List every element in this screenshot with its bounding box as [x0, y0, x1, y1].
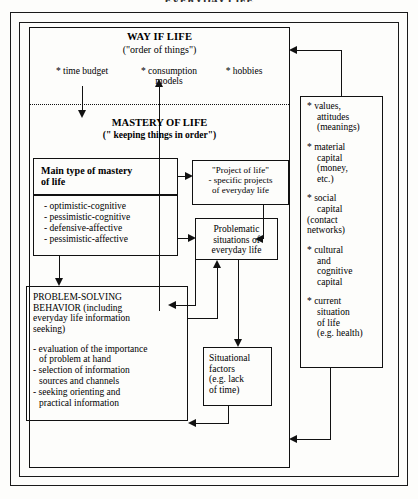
psb-item: - selection of information sources and c… [33, 365, 183, 386]
mastery-type-item: - optimistic-cognitive [44, 201, 177, 212]
mastery-of-life-subtitle: (" keeping things in order") [29, 130, 290, 140]
resource-line: cognitive [305, 266, 380, 277]
resource-group: * values, attitudes (meanings) [305, 101, 380, 133]
resource-line: capital [305, 204, 380, 215]
psb-item: - evaluation of the importance of proble… [33, 344, 183, 365]
connector-problematic-to-situational-line [238, 260, 239, 340]
resource-line: * cultural [305, 245, 380, 256]
situational-factors-box: Situational factors (e.g. lack of time) [203, 347, 272, 406]
project-line1: "Project of life" [195, 165, 286, 175]
connector-situational-to-psb-hline [196, 423, 229, 424]
psb-heading: PROBLEM-SOLVING BEHAVIOR (including ever… [33, 292, 183, 335]
connector-types-to-psb-line [59, 256, 60, 279]
connector-psb-to-problematic-hline [188, 318, 218, 319]
psb-item-main: - evaluation of the importance [33, 344, 147, 354]
resource-group: * material capital (money, etc.) [305, 142, 380, 185]
main-type-line2: of life [41, 176, 177, 187]
resource-line: * current [305, 296, 380, 307]
connector-resources-to-frame-arrow [289, 435, 297, 443]
psb-head-line2: BEHAVIOR (including [33, 303, 183, 314]
connector-resources-to-frame-vline [330, 368, 331, 440]
resource-line: * values, [305, 101, 380, 112]
project-line2: - specific projects [195, 175, 286, 185]
problem-solving-behavior-box: PROBLEM-SOLVING BEHAVIOR (including ever… [26, 286, 188, 421]
situational-line4: of time) [209, 385, 269, 396]
mastery-type-item: - pessimistic-affective [44, 234, 177, 245]
mastery-types-box: - optimistic-cognitive - pessimistic-cog… [33, 195, 178, 256]
resource-line: (contact [305, 215, 380, 226]
way-of-life-subtitle: ("order of things") [29, 44, 290, 55]
main-type-of-mastery-box: Main type of mastery of life [33, 158, 178, 195]
project-line3: of everyday life [195, 185, 286, 195]
resource-line: (money, [305, 163, 380, 174]
bullet-hobbies: * hobbies [213, 66, 275, 76]
connector-psb-to-problematic-vline [217, 267, 218, 319]
connector-situational-to-psb-vline [228, 406, 229, 424]
psb-item-cont: practical information [33, 398, 183, 409]
resource-group: * cultural and cognitive capital [305, 245, 380, 288]
connector-problematic-to-psb-vline [195, 260, 196, 306]
mastery-of-life-title: MASTERY OF LIFE [29, 117, 290, 128]
diagram-canvas: EVERYDAY LIFE WAY IF LIFE ("order of thi… [0, 0, 418, 499]
psb-item-main: - selection of information [33, 365, 130, 375]
main-type-line1: Main type of mastery [41, 165, 177, 176]
bullet-consumption-models: * consumption models [128, 66, 210, 86]
psb-item: - seeking orienting and practical inform… [33, 387, 183, 408]
situational-line2: factors [209, 364, 269, 375]
resource-line: attitudes [305, 112, 380, 123]
connector-mastery-to-waylife-arrow [155, 79, 163, 87]
connector-psb-to-problematic-arrow [213, 260, 221, 268]
connector-problematic-to-psb-hline [175, 305, 196, 306]
connector-project-to-problematic-vline [263, 205, 264, 239]
psb-head-line4: seeking) [33, 324, 183, 335]
connector-situational-to-psb-arrow [188, 419, 196, 427]
problematic-line3: everyday life [198, 245, 275, 256]
resource-line: capital [305, 153, 380, 164]
psb-head-line3: everyday life information [33, 313, 183, 324]
resource-line: etc.) [305, 174, 380, 185]
psb-item-cont: sources and channels [33, 376, 183, 387]
situational-line1: Situational [209, 353, 269, 364]
way-of-life-title: WAY IF LIFE [29, 31, 290, 42]
psb-head-line1: PROBLEM-SOLVING [33, 292, 183, 303]
connector-resources-to-waylife-arrow [289, 46, 297, 54]
resource-line: * material [305, 142, 380, 153]
psb-item-cont: of problem at hand [33, 354, 183, 365]
connector-types-to-problematic-arrow [188, 234, 196, 242]
bullet-time-budget: * time budget [41, 66, 123, 76]
connector-project-to-problematic-arrow [255, 235, 263, 243]
resource-line: networks) [305, 225, 380, 236]
resource-line: of life [305, 318, 380, 329]
resource-line: (meanings) [305, 122, 380, 133]
resource-group: * social capital (contact networks) [305, 193, 380, 236]
psb-item-main: - seeking orienting and [33, 387, 120, 397]
bullet-consumption-line2: models [128, 76, 210, 86]
psb-item-list: - evaluation of the importance of proble… [33, 344, 183, 409]
bullet-consumption-line1: * consumption [128, 66, 210, 76]
resource-line: and [305, 256, 380, 267]
connector-resources-to-waylife-vline [341, 51, 342, 97]
connector-resources-to-frame-hline [297, 439, 331, 440]
resource-line: * social [305, 193, 380, 204]
connector-problematic-to-situational-arrow [234, 339, 242, 347]
connector-problematic-to-psb-arrow [168, 301, 176, 309]
resource-line: (e.g. health) [305, 328, 380, 339]
connector-maintype-to-project-arrow [185, 172, 193, 180]
page-title-cropped: EVERYDAY LIFE [0, 0, 418, 2]
resources-box: * values, attitudes (meanings) * materia… [300, 96, 383, 368]
project-of-life-box: "Project of life" - specific projects of… [192, 160, 289, 205]
resource-line: capital [305, 277, 380, 288]
problematic-situations-box: Problematic situations of everyday life [195, 218, 278, 260]
connector-resources-to-waylife-hline [297, 50, 342, 51]
resource-group: * current situation of life (e.g. health… [305, 296, 380, 339]
mastery-type-item: - defensive-affective [44, 223, 177, 234]
situational-line3: (e.g. lack [209, 374, 269, 385]
connector-waylife-to-mastery-line [82, 86, 83, 112]
mastery-type-item: - pessimistic-cognitive [44, 212, 177, 223]
connector-types-to-psb-arrow [55, 278, 63, 286]
resource-line: situation [305, 307, 380, 318]
